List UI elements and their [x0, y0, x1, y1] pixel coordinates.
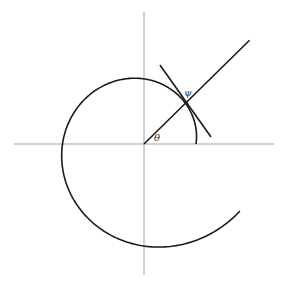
tangent-line: [160, 65, 211, 137]
spiral-diagram: θ ψ: [0, 0, 283, 285]
theta-label: θ: [154, 132, 160, 143]
radial-line: [144, 40, 250, 144]
psi-label: ψ: [184, 87, 192, 98]
log-spiral-curve: [62, 78, 240, 247]
